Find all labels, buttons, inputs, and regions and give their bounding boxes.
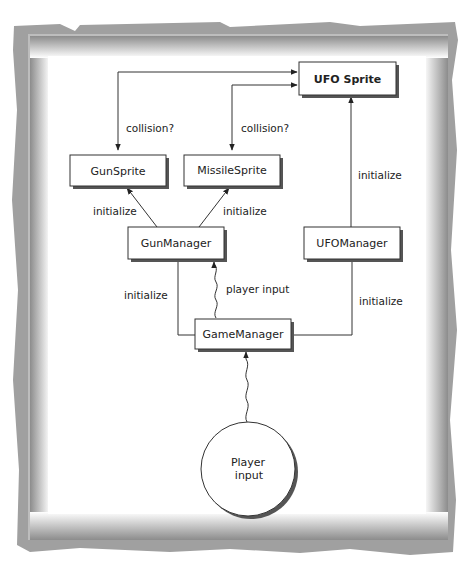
node-game-manager: GameManager [195, 319, 294, 352]
node-ufo-manager: UFOManager [304, 227, 403, 262]
edge-label-ufomanager-init: initialize [359, 295, 403, 307]
edge-label-gunsprite-init: initialize [93, 205, 137, 217]
node-label: UFOManager [316, 237, 388, 250]
node-label: GunSprite [90, 165, 145, 178]
node-label: MissileSprite [197, 164, 267, 177]
node-label: UFO Sprite [314, 73, 381, 86]
node-gun-manager: GunManager [128, 227, 227, 262]
node-label: GunManager [141, 237, 212, 250]
edge-label-player-input: player input [226, 283, 289, 295]
diagram: UFO Sprite GunSprite MissileSprite GunMa… [0, 0, 472, 574]
node-missile-sprite: MissileSprite [184, 155, 283, 189]
node-label: GameManager [203, 328, 284, 341]
edge-label-missilesprite-init: initialize [223, 205, 267, 217]
node-gun-sprite: GunSprite [70, 155, 169, 189]
node-label-line2: input [235, 469, 264, 482]
edge-label-gunmanager-init: initialize [124, 289, 168, 301]
edge-label-missile-collision: collision? [241, 122, 289, 134]
node-ufo-sprite: UFO Sprite [299, 62, 399, 98]
node-label-line1: Player [231, 456, 266, 469]
edge-label-ufo-init: initialize [358, 169, 402, 181]
edge-label-gun-collision: collision? [126, 122, 174, 134]
